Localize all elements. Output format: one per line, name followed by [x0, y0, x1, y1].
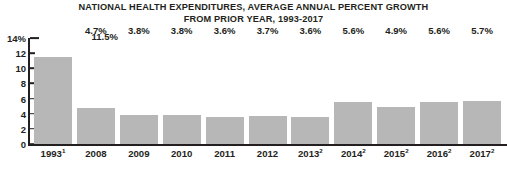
bar-value-label: 3.7% — [257, 25, 279, 36]
bar — [420, 102, 458, 144]
y-axis-tick-label: 10 — [15, 63, 26, 74]
chart-container: NATIONAL HEALTH EXPENDITURES, AVERAGE AN… — [0, 0, 507, 174]
bar — [291, 117, 329, 144]
y-axis-tick-label: 2 — [21, 123, 26, 134]
x-axis-tick-label: 2009 — [120, 148, 158, 159]
y-axis-line — [28, 38, 30, 146]
x-axis-tick-label: 2012 — [249, 148, 287, 159]
x-axis-tick-label: 2011 — [206, 148, 244, 159]
x-axis-label-footnote: 2 — [405, 147, 408, 154]
x-axis-label-footnote: 1 — [62, 147, 65, 154]
x-axis-tick-label: 20162 — [420, 148, 458, 159]
y-axis-tick-label: 0 — [21, 139, 26, 150]
x-axis-tick-label: 20172 — [463, 148, 501, 159]
y-axis-tick-label: 8 — [21, 78, 26, 89]
x-axis-tick-label: 2008 — [77, 148, 115, 159]
y-axis-tick-label: 6 — [21, 93, 26, 104]
bar-group: 5.6% — [420, 38, 458, 144]
bar-value-label: 3.6% — [214, 25, 236, 36]
bar — [77, 108, 115, 144]
bar-value-label: 5.6% — [428, 25, 450, 36]
chart-title-line-1: NATIONAL HEALTH EXPENDITURES, AVERAGE AN… — [0, 2, 507, 14]
bar-value-label: 4.7% — [85, 25, 107, 36]
y-axis-tick-label: 14% — [7, 33, 26, 44]
x-axis-label-footnote: 2 — [319, 147, 322, 154]
bar-value-label: 3.6% — [300, 25, 322, 36]
bar-value-label: 5.6% — [342, 25, 364, 36]
bar — [120, 115, 158, 144]
bar-value-label: 3.8% — [171, 25, 193, 36]
x-axis-tick-label: 20142 — [334, 148, 372, 159]
x-axis-tick-label: 2010 — [163, 148, 201, 159]
bar — [206, 117, 244, 144]
plot-area: 11.5%4.7%3.8%3.8%3.6%3.7%3.6%5.6%4.9%5.6… — [28, 38, 507, 146]
x-axis-tick-label: 19931 — [34, 148, 72, 159]
bar-group: 4.7% — [77, 38, 115, 144]
x-axis-line — [28, 144, 507, 146]
bar-value-label: 3.8% — [128, 25, 150, 36]
bar-group: 11.5% — [34, 38, 72, 144]
x-axis-label-footnote: 2 — [448, 147, 451, 154]
bar-value-label: 5.7% — [471, 25, 493, 36]
x-axis-tick-label: 20132 — [291, 148, 329, 159]
bar-group: 3.6% — [206, 38, 244, 144]
bar — [334, 102, 372, 144]
bar — [377, 107, 415, 144]
bar — [163, 115, 201, 144]
bar-group: 3.6% — [291, 38, 329, 144]
bar — [249, 116, 287, 144]
chart-title-line-2: FROM PRIOR YEAR, 1993-2017 — [0, 14, 507, 26]
x-axis-label-footnote: 2 — [491, 147, 494, 154]
x-axis-label-footnote: 2 — [362, 147, 365, 154]
bar — [34, 57, 72, 144]
bar — [463, 101, 501, 144]
bar-group: 3.8% — [163, 38, 201, 144]
bar-group: 5.6% — [334, 38, 372, 144]
y-axis-tick-label: 12 — [15, 48, 26, 59]
bar-group: 4.9% — [377, 38, 415, 144]
y-axis-tick-label: 4 — [21, 108, 26, 119]
bar-group: 3.8% — [120, 38, 158, 144]
x-axis-tick-label: 20152 — [377, 148, 415, 159]
bar-group: 5.7% — [463, 38, 501, 144]
y-axis-labels: 14%121086420 — [0, 38, 26, 146]
chart-title: NATIONAL HEALTH EXPENDITURES, AVERAGE AN… — [0, 2, 507, 25]
bar-group: 3.7% — [249, 38, 287, 144]
bar-value-label: 4.9% — [385, 25, 407, 36]
